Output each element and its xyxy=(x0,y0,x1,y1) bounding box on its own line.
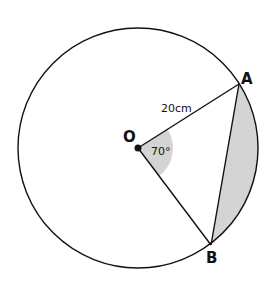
label-radius: 20cm xyxy=(161,102,192,115)
label-center-o: O xyxy=(123,128,136,146)
circle-diagram: O A B 20cm 70° xyxy=(0,0,272,292)
label-angle: 70° xyxy=(151,145,171,158)
radius-ob xyxy=(138,148,211,245)
label-point-a: A xyxy=(241,70,253,88)
radius-oa xyxy=(138,84,239,148)
label-point-b: B xyxy=(206,249,217,267)
